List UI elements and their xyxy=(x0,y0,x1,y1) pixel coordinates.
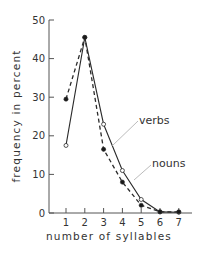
y-tick-label: 40 xyxy=(32,53,45,64)
y-tick-label: 20 xyxy=(32,130,45,141)
verbs-data-point xyxy=(102,122,106,126)
syllable-frequency-chart: 01020304050 1234567 verbs nouns number o… xyxy=(0,0,211,260)
y-tick-label: 50 xyxy=(32,15,45,26)
x-tick-label: 6 xyxy=(157,217,163,228)
y-axis-title: frequency in percent xyxy=(10,49,22,182)
verbs-data-point xyxy=(120,169,124,173)
nouns-data-point xyxy=(177,210,181,214)
x-tick-label: 5 xyxy=(138,217,144,228)
nouns-data-point xyxy=(158,210,162,214)
verbs-label: verbs xyxy=(139,114,170,127)
nouns-leader-line xyxy=(134,165,151,180)
x-axis-ticks: 1234567 xyxy=(63,208,182,228)
chart-container: 01020304050 1234567 verbs nouns number o… xyxy=(0,0,211,260)
x-axis-title: number of syllables xyxy=(46,230,172,242)
x-tick-label: 7 xyxy=(176,217,182,228)
x-tick-label: 3 xyxy=(100,217,106,228)
nouns-data-point xyxy=(102,147,106,151)
x-tick-label: 4 xyxy=(119,217,125,228)
axes xyxy=(49,20,192,213)
verbs-data-point xyxy=(139,197,143,201)
nouns-data-point xyxy=(120,180,124,184)
nouns-data-point xyxy=(139,203,143,207)
y-tick-label: 30 xyxy=(32,92,45,103)
verbs-leader-line xyxy=(112,121,138,146)
y-axis-ticks: 01020304050 xyxy=(32,15,54,219)
nouns-data-point xyxy=(64,97,68,101)
verbs-data-point xyxy=(64,143,68,147)
y-tick-label: 0 xyxy=(39,208,45,219)
nouns-data-point xyxy=(83,35,87,39)
nouns-label: nouns xyxy=(152,157,186,170)
x-tick-label: 1 xyxy=(63,217,69,228)
y-tick-label: 10 xyxy=(32,169,45,180)
x-tick-label: 2 xyxy=(82,217,88,228)
